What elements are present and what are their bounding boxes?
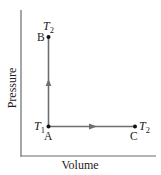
y-axis-label: Pressure: [5, 68, 19, 109]
temp-subscript: 2: [146, 125, 150, 135]
point-c-label: C: [130, 130, 138, 142]
x-axis-label: Volume: [61, 158, 98, 172]
point-b-label: B: [37, 31, 45, 43]
point-c-temperature: T2: [139, 119, 150, 135]
temp-subscript: 2: [50, 25, 54, 35]
arrow-up-icon: [46, 79, 52, 86]
point-b: [47, 35, 51, 39]
point-a-label: A: [44, 130, 53, 142]
pv-diagram: Pressure Volume T2 B T1 A C T2: [0, 0, 161, 175]
point-a: [47, 125, 51, 129]
arrow-right-icon: [89, 124, 97, 130]
process-paths: [46, 37, 135, 129]
point-c: [133, 125, 137, 129]
